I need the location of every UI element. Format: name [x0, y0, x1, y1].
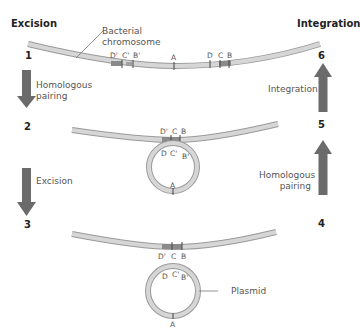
chromosome-top — [28, 30, 320, 70]
label-homologous-left-2: pairing — [36, 91, 92, 102]
arrow-up-1 — [314, 140, 332, 195]
marker-top-b: B — [227, 51, 232, 60]
step-1: 1 — [25, 50, 32, 61]
label-plasmid: Plasmid — [231, 286, 266, 297]
label-chromosome-line1: Bacterial — [102, 26, 160, 37]
marker-bot-d-prime: D' — [158, 252, 166, 261]
marker-mid-ring-b-prime: B' — [182, 152, 189, 161]
marker-mid-c: C — [172, 127, 177, 136]
marker-top-c-prime: C' — [122, 51, 129, 60]
arrow-down-2 — [17, 168, 36, 216]
marker-top-d-prime: D' — [110, 51, 118, 60]
marker-mid-d-prime: D' — [160, 127, 168, 136]
marker-mid-ring-a: A — [170, 181, 175, 190]
marker-bot-c: C — [171, 252, 176, 261]
marker-top-c: C — [218, 51, 223, 60]
marker-bot-ring-c-prime: C' — [172, 270, 179, 279]
marker-bot-ring-d: D — [162, 272, 168, 281]
label-bacterial-chromosome: Bacterial chromosome — [102, 26, 160, 48]
step-4: 4 — [318, 218, 325, 229]
marker-mid-b: B — [181, 127, 186, 136]
marker-bot-ring-b-prime: B' — [181, 273, 188, 282]
label-homologous-right-1: Homologous — [259, 170, 311, 181]
label-integration: Integration — [268, 84, 318, 95]
marker-bot-ring-a: A — [170, 320, 175, 329]
header-integration: Integration — [297, 18, 360, 29]
header-excision: Excision — [11, 18, 57, 29]
label-homologous-pairing-right: Homologous pairing — [259, 170, 311, 192]
label-excision: Excision — [36, 176, 73, 187]
marker-mid-ring-c-prime: C' — [170, 149, 177, 158]
marker-top-b-prime: B' — [133, 51, 140, 60]
label-homologous-right-2: pairing — [259, 181, 311, 192]
marker-bot-b: B — [181, 252, 186, 261]
label-chromosome-line2: chromosome — [102, 37, 160, 48]
marker-mid-ring-d: D — [161, 149, 167, 158]
step-2: 2 — [24, 121, 31, 132]
chromosome-bottom — [72, 232, 276, 250]
marker-top-d: D — [207, 51, 213, 60]
marker-top-a: A — [171, 53, 176, 62]
step-6: 6 — [318, 50, 325, 61]
arrow-down-1 — [17, 70, 36, 108]
step-3: 3 — [24, 219, 31, 230]
label-homologous-left-1: Homologous — [36, 80, 92, 91]
step-5: 5 — [318, 119, 325, 130]
label-homologous-pairing-left: Homologous pairing — [36, 80, 92, 102]
